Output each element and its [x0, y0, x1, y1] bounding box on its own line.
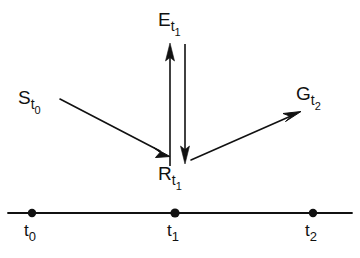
diagram-figure: Et1 St0 Gt2 Rt1 t0 t1 t2 [0, 0, 360, 258]
event-node-E: Et1 [158, 10, 181, 29]
timeline-tick-t0-sub: 0 [29, 229, 36, 244]
timeline-tick-t2-sub: 2 [310, 229, 317, 244]
diagram-canvas [0, 0, 360, 258]
timeline-dot-t2 [309, 209, 317, 217]
timeline-tick-t1-sub: 1 [172, 229, 179, 244]
event-node-R: Rt1 [158, 164, 182, 183]
arrow-e-to-r [181, 44, 190, 164]
event-node-E-sub: t [171, 18, 175, 34]
timeline-tick-t1: t1 [167, 222, 179, 239]
timeline-tick-t0: t0 [24, 222, 36, 239]
timeline-dot-t0 [28, 209, 36, 217]
event-node-S: St0 [18, 88, 41, 107]
event-node-S-subsub: 0 [35, 104, 41, 116]
event-node-E-subsub: 1 [175, 26, 181, 38]
event-node-S-sub: t [31, 96, 35, 112]
timeline-dot-t1 [170, 208, 179, 217]
arrow-s-to-r [60, 99, 170, 158]
event-node-E-base: E [158, 9, 171, 30]
event-node-G-base: G [296, 83, 311, 104]
event-node-S-base: S [18, 87, 31, 108]
arrow-r-to-e [166, 43, 175, 166]
event-node-G-subsub: 2 [315, 100, 321, 112]
event-node-G: Gt2 [296, 84, 321, 103]
timeline-tick-t2: t2 [305, 222, 317, 239]
event-node-R-base: R [158, 163, 172, 184]
event-node-R-subsub: 1 [176, 180, 182, 192]
arrow-r-to-g [191, 112, 301, 161]
